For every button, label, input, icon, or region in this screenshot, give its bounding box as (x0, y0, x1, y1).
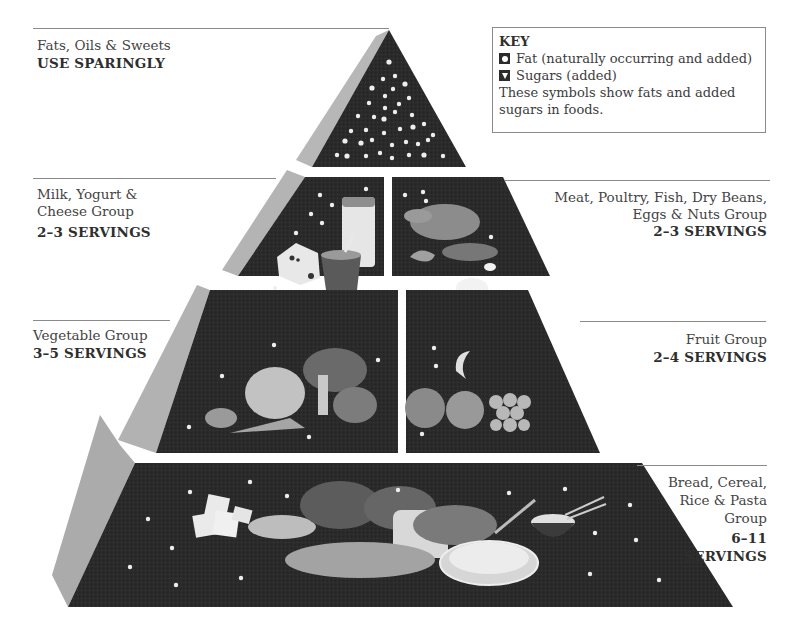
key-title: KEY (499, 33, 759, 50)
key-item-label: Fat (naturally occurring and added) (516, 50, 752, 67)
group-name-line1: Bread, Cereal, (668, 473, 767, 491)
fat-circle-icon (499, 53, 510, 64)
tier-fruit (405, 290, 600, 453)
label-meat-poultry-fish: Meat, Poultry, Fish, Dry Beans, Eggs & N… (554, 189, 767, 240)
group-name-line2: Cheese Group (37, 203, 151, 220)
rule-fats (33, 28, 389, 29)
group-name: Vegetable Group (33, 327, 148, 344)
rule-meat (505, 180, 770, 181)
key-item-fat: Fat (naturally occurring and added) (499, 50, 759, 67)
rule-vegetable (33, 320, 170, 321)
rule-bread (637, 465, 767, 466)
group-name-line1: Meat, Poultry, Fish, Dry Beans, (554, 189, 767, 206)
group-name-line2: Rice & Pasta (668, 491, 767, 509)
label-bread-cereal-rice-pasta: Bread, Cereal, Rice & Pasta Group 6–11 S… (668, 473, 767, 565)
sugar-triangle-icon (499, 70, 510, 81)
label-vegetable: Vegetable Group 3–5 SERVINGS (33, 327, 148, 362)
group-name: Fats, Oils & Sweets (37, 37, 171, 54)
tier-bread-cereal-rice-pasta (68, 463, 733, 607)
label-fruit: Fruit Group 2–4 SERVINGS (653, 331, 767, 366)
label-fats-oils-sweets: Fats, Oils & Sweets USE SPARINGLY (37, 37, 171, 72)
group-name: Fruit Group (653, 331, 767, 348)
tier-fats-oils-sweets (312, 30, 466, 167)
group-name-line3: Group (668, 509, 767, 527)
group-servings-line1: 6–11 (668, 529, 767, 547)
group-servings: 2–3 SERVINGS (554, 223, 767, 240)
key-note: These symbols show fats and added sugars… (499, 84, 759, 118)
group-servings: USE SPARINGLY (37, 55, 171, 72)
group-servings: 2–3 SERVINGS (37, 224, 151, 241)
key-legend: KEY Fat (naturally occurring and added) … (492, 27, 766, 133)
group-servings-line2: SERVINGS (668, 547, 767, 565)
rule-fruit (580, 321, 766, 322)
group-name-line1: Milk, Yogurt & (37, 186, 151, 203)
key-item-sugar: Sugars (added) (499, 67, 759, 84)
tier-meat-poultry-fish (392, 177, 550, 309)
group-name-line2: Eggs & Nuts Group (554, 206, 767, 223)
group-servings: 3–5 SERVINGS (33, 345, 148, 362)
group-servings: 2–4 SERVINGS (653, 349, 767, 366)
label-milk-yogurt-cheese: Milk, Yogurt & Cheese Group 2–3 SERVINGS (37, 186, 151, 241)
rule-milk (33, 178, 276, 179)
key-item-label: Sugars (added) (516, 67, 617, 84)
